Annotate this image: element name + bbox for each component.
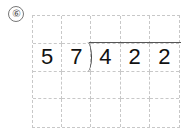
grid-cell[interactable] xyxy=(91,99,120,127)
grid-cell[interactable] xyxy=(121,16,150,44)
grid-cell[interactable] xyxy=(121,72,150,100)
division-bar xyxy=(89,42,181,43)
long-division-grid: 5 7 4 2 2 xyxy=(32,15,180,128)
grid-cell[interactable] xyxy=(150,99,179,127)
grid-cell[interactable] xyxy=(91,72,120,100)
grid-cell[interactable] xyxy=(33,72,62,100)
grid-cell[interactable] xyxy=(62,99,91,127)
divisor-digit: 5 xyxy=(33,44,62,72)
grid-cell[interactable] xyxy=(121,99,150,127)
grid-cell[interactable] xyxy=(91,16,120,44)
problem-number-label: ⑥ xyxy=(8,6,24,22)
grid-cell[interactable] xyxy=(150,72,179,100)
division-bracket xyxy=(82,42,92,72)
dividend-digit: 2 xyxy=(121,44,150,72)
grid-cell[interactable] xyxy=(33,99,62,127)
grid-cell[interactable] xyxy=(62,16,91,44)
dividend-digit: 4 xyxy=(91,44,120,72)
dividend-digit: 2 xyxy=(150,44,179,72)
grid-cell[interactable] xyxy=(62,72,91,100)
grid-cell[interactable] xyxy=(150,16,179,44)
grid-cell[interactable] xyxy=(33,16,62,44)
